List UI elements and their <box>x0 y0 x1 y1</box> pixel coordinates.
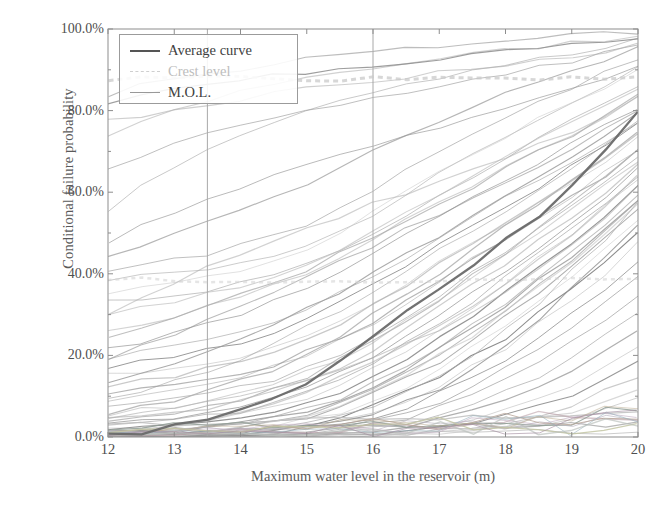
legend-item: Crest level <box>130 61 297 82</box>
y-tick-label: 60.0% <box>42 184 104 200</box>
y-tick-label: 100.0% <box>42 21 104 37</box>
fragility-curve <box>107 134 637 387</box>
legend-swatch-average-curve <box>130 50 160 52</box>
x-tick-label: 18 <box>498 441 513 458</box>
x-tick-label: 12 <box>101 441 116 458</box>
figure-container: Conditional failure probability 0.0%20.0… <box>0 0 660 507</box>
legend-item: M.O.L. <box>130 82 297 103</box>
legend-swatch-m-o-l <box>130 92 160 93</box>
x-tick-label: 14 <box>233 441 248 458</box>
x-tick-label: 20 <box>631 441 646 458</box>
fragility-curve <box>107 331 636 437</box>
x-tick-label: 19 <box>565 441 580 458</box>
x-tick-label: 16 <box>366 441 381 458</box>
y-tick-label: 80.0% <box>42 103 104 119</box>
legend-label: M.O.L. <box>168 84 211 101</box>
y-axis-ticks: 0.0%20.0%40.0%60.0%80.0%100.0% <box>40 0 104 507</box>
legend-label: Average curve <box>168 42 252 59</box>
x-tick-label: 17 <box>432 441 447 458</box>
x-tick-label: 15 <box>300 441 315 458</box>
fragility-curve <box>108 161 639 416</box>
y-tick-label: 0.0% <box>42 429 104 445</box>
legend-swatch-crest-level <box>130 71 160 72</box>
y-tick-label: 20.0% <box>42 347 104 363</box>
legend-item: Average curve <box>130 40 297 61</box>
y-tick-label: 40.0% <box>42 266 104 282</box>
x-axis-label: Maximum water level in the reservoir (m) <box>108 468 638 485</box>
x-tick-label: 13 <box>167 441 182 458</box>
legend-label: Crest level <box>168 63 230 80</box>
legend-box: Average curveCrest levelM.O.L. <box>119 34 298 104</box>
